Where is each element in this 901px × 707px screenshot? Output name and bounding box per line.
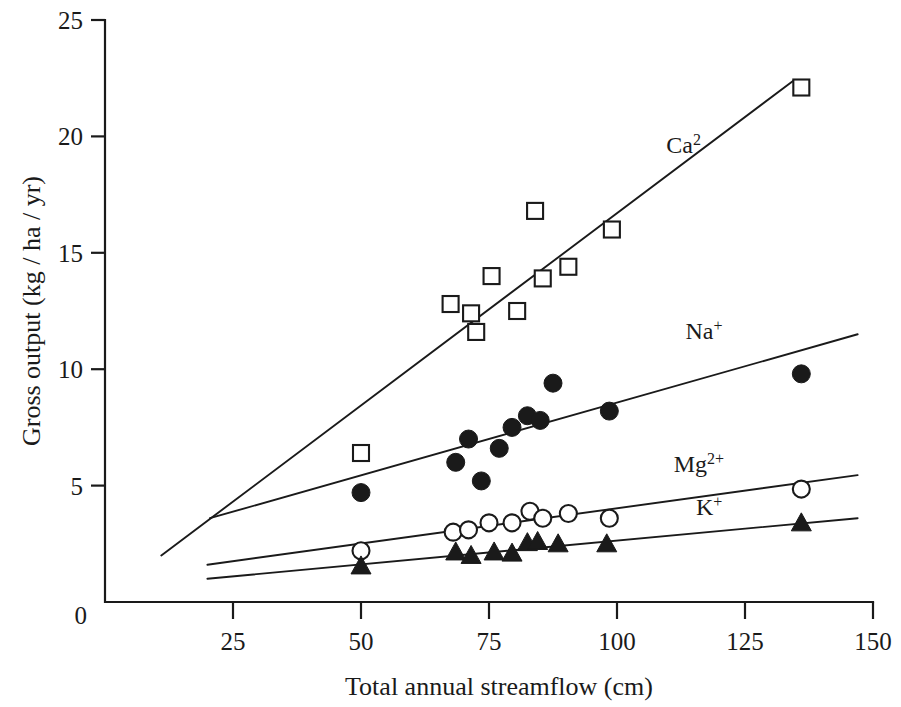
x-tick-label-100: 100 [598,628,636,655]
data-point [481,514,498,531]
data-point [604,222,620,238]
data-point [463,305,479,321]
data-point [468,324,484,340]
data-point [446,542,466,560]
data-point [531,411,549,429]
data-point [445,524,462,541]
data-point [535,270,551,286]
y-tick-label-25: 25 [58,7,83,34]
data-point [460,521,477,538]
x-tick-label-75: 75 [477,628,502,655]
series-label-Na+: Na+ [686,316,723,344]
data-point [490,439,508,457]
y-axis-title: Gross output (kg / ha / yr) [17,176,46,446]
y-tick-label-10: 10 [58,356,83,383]
data-point [544,374,562,392]
chart-figure: 0510152025255075100125150Total annual st… [0,0,901,707]
data-point [504,514,521,531]
series-markers-Ca2 [353,80,809,461]
x-tick-label-25: 25 [221,628,246,655]
data-point [460,430,478,448]
y-tick-label-0: 0 [75,602,88,629]
data-point [527,203,543,219]
x-tick-label-150: 150 [854,628,892,655]
series-markers-Mg2+ [353,481,810,560]
data-point [548,534,568,552]
data-point [509,303,525,319]
data-point [352,484,370,502]
data-point [793,80,809,96]
data-point [502,543,522,561]
data-point [353,445,369,461]
x-tick-label-50: 50 [349,628,374,655]
y-tick-label-5: 5 [71,473,84,500]
data-point [600,402,618,420]
y-tick-label-20: 20 [58,123,83,150]
series-label-Mg2+: Mg2+ [674,449,724,477]
data-point [560,259,576,275]
scatter-plot-svg: 0510152025255075100125150Total annual st… [0,0,901,707]
data-point [534,510,551,527]
series-markers-Na+ [352,365,810,502]
y-tick-label-15: 15 [58,240,83,267]
data-point [560,505,577,522]
series-label-K+: K+ [696,492,722,520]
x-tick-label-125: 125 [726,628,764,655]
data-point [484,268,500,284]
x-axis-title: Total annual streamflow (cm) [345,672,653,701]
data-point [792,365,810,383]
data-point [793,481,810,498]
data-point [443,296,459,312]
data-point [503,418,521,436]
data-point [601,510,618,527]
data-point [447,453,465,471]
data-point [472,472,490,490]
